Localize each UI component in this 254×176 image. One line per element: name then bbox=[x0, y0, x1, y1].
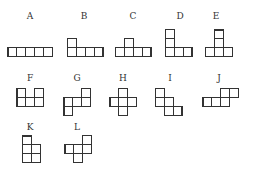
grid-square bbox=[73, 153, 83, 163]
grid-square bbox=[173, 106, 183, 116]
grid-square bbox=[127, 97, 137, 107]
grid-square bbox=[81, 97, 91, 107]
shape-label: D bbox=[176, 12, 183, 21]
shape-label: B bbox=[81, 12, 88, 21]
grid-square bbox=[142, 47, 152, 57]
shape-label: J bbox=[217, 74, 221, 83]
shape-label: K bbox=[27, 123, 34, 132]
grid-square bbox=[94, 47, 104, 57]
shape-label: G bbox=[73, 74, 80, 83]
grid-square bbox=[229, 88, 239, 98]
grid-square bbox=[34, 97, 44, 107]
grid-square bbox=[220, 97, 230, 107]
shape-label: C bbox=[130, 12, 137, 21]
shape-label: L bbox=[74, 123, 80, 132]
grid-square bbox=[31, 153, 41, 163]
grid-square bbox=[82, 144, 92, 154]
grid-square bbox=[223, 47, 233, 57]
shape-label: H bbox=[119, 74, 127, 83]
grid-square bbox=[118, 106, 128, 116]
shape-label: F bbox=[27, 74, 33, 83]
shape-label: A bbox=[27, 12, 34, 21]
grid-square bbox=[43, 47, 53, 57]
shape-label: E bbox=[213, 12, 220, 21]
shape-label: I bbox=[168, 74, 172, 83]
grid-square bbox=[183, 47, 193, 57]
grid-square bbox=[63, 106, 73, 116]
